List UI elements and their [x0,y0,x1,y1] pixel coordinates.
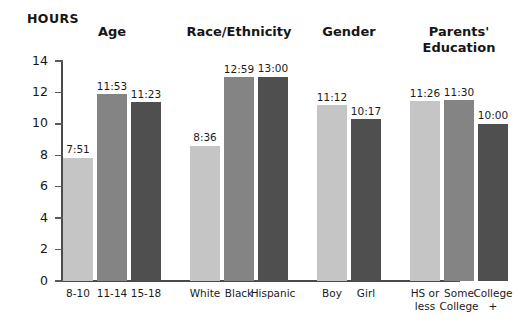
y-tick-label: 6 [8,180,48,193]
y-tick-label: 4 [8,212,48,225]
group-heading: Age [42,24,182,40]
bar-value-label: 12:59 [224,64,254,75]
y-tick-label: 8 [8,149,48,162]
bar[interactable]: 7:51 [63,158,93,281]
y-tick-label: 2 [8,243,48,256]
bar-value-label: 7:51 [66,144,90,155]
y-tick-label: 12 [8,86,48,99]
bar[interactable]: 12:59 [224,77,254,281]
category-label: Girl [339,287,393,300]
y-tick-label: 10 [8,117,48,130]
bar-rect [190,146,220,281]
y-tick-label: 14 [8,55,48,68]
bar-value-label: 11:53 [97,81,127,92]
bar-value-label: 10:17 [351,106,381,117]
bar-value-label: 10:00 [478,110,508,121]
bar-rect [224,77,254,281]
category-label: 15-18 [119,287,173,300]
bar-rect [410,101,440,281]
bar-rect [131,102,161,281]
bar-rect [63,158,93,281]
bar[interactable]: 10:17 [351,119,381,281]
group-heading: Parents' Education [389,24,517,56]
bar[interactable]: 10:00 [478,124,508,281]
bar[interactable]: 11:53 [97,94,127,281]
bar[interactable]: 11:26 [410,101,440,281]
category-label: College + [466,287,517,313]
bar[interactable]: 11:30 [444,100,474,281]
bar-value-label: 11:26 [410,88,440,99]
bar-rect [444,100,474,281]
bar-value-label: 8:36 [193,132,217,143]
bar[interactable]: 8:36 [190,146,220,281]
bar[interactable]: 11:23 [131,102,161,281]
bar-rect [478,124,508,281]
bar-rect [351,119,381,281]
y-tick-label: 0 [8,275,48,288]
category-label: Hispanic [246,287,300,300]
bar-value-label: 11:23 [131,89,161,100]
bar[interactable]: 11:12 [317,105,347,281]
bar-rect [97,94,127,281]
bar-value-label: 13:00 [258,63,288,74]
bar-value-label: 11:30 [444,87,474,98]
bar-rect [258,77,288,281]
bar-value-label: 11:12 [317,92,347,103]
bar-rect [317,105,347,281]
bar[interactable]: 13:00 [258,77,288,281]
plot-area: 7:5111:5311:238:3612:5913:0011:1210:1711… [62,61,460,281]
